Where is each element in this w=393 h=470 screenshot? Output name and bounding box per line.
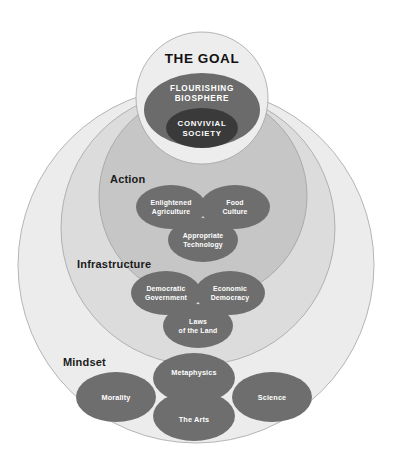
node-label-laws-of-the-land-line1: Laws <box>189 318 207 325</box>
node-label-enlightened-agriculture-line1: Enlightened <box>150 199 191 207</box>
convivial-society-ellipse[interactable] <box>166 108 238 148</box>
node-label-appropriate-technology-line2: Technology <box>183 241 223 249</box>
node-label-economic-democracy-line2: Democracy <box>211 294 250 302</box>
convivial-society-line2: SOCIETY <box>182 129 221 138</box>
node-laws-of-the-land[interactable] <box>163 304 233 348</box>
node-label-metaphysics: Metaphysics <box>171 368 216 377</box>
node-label-economic-democracy-line1: Economic <box>213 285 247 292</box>
node-label-the-arts: The Arts <box>179 415 210 424</box>
node-label-laws-of-the-land-line2: of the Land <box>179 327 218 334</box>
node-label-food-culture-line2: Culture <box>222 208 247 215</box>
nested-spheres-diagram: Mindset Morality Science Metaphysics The… <box>0 0 393 470</box>
tier-label-action: Action <box>110 173 145 185</box>
tier-label-infrastructure: Infrastructure <box>77 258 151 270</box>
node-label-appropriate-technology-line1: Appropriate <box>183 232 224 240</box>
tier-label-mindset: Mindset <box>63 356 106 368</box>
node-label-morality: Morality <box>101 393 131 402</box>
node-label-democratic-government-line2: Government <box>145 294 188 301</box>
node-appropriate-technology[interactable] <box>168 218 238 262</box>
diagram-canvas: Mindset Morality Science Metaphysics The… <box>0 0 393 470</box>
convivial-society-line1: CONVIVIAL <box>178 119 227 128</box>
goal-group: THE GOAL FLOURISHING BIOSPHERE CONVIVIAL… <box>136 32 268 164</box>
node-label-food-culture-line1: Food <box>226 199 243 206</box>
node-label-enlightened-agriculture-line2: Agriculture <box>152 208 190 216</box>
flourishing-biosphere-line2: BIOSPHERE <box>175 94 230 103</box>
goal-title: THE GOAL <box>165 51 240 66</box>
node-label-science: Science <box>258 393 287 402</box>
node-label-democratic-government-line1: Democratic <box>146 285 185 292</box>
flourishing-biosphere-line1: FLOURISHING <box>170 84 234 93</box>
